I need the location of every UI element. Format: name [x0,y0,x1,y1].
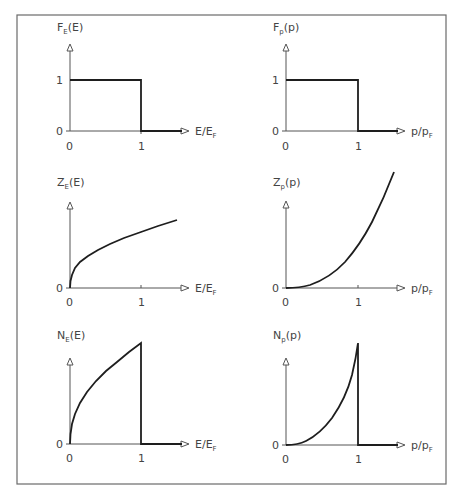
y-tick-label: 0 [56,125,63,138]
y-axis-arrow-icon [67,358,73,365]
curve [286,80,398,131]
y-axis-arrow-icon [67,44,73,51]
panel-ze: ZE(E) E/EF 0 0 1 [56,176,217,309]
curve [70,220,177,288]
y-tick-label: 1 [272,74,279,87]
curve [286,343,398,445]
x-axis-arrow-icon [397,442,405,448]
y-tick-label: 0 [272,439,279,452]
x-tick-label: 1 [138,452,145,465]
y-axis-arrow-icon [283,201,289,208]
x-axis-arrow-icon [397,285,405,291]
panel-ne: NE(E) E/EF 0 0 1 [56,329,217,465]
x-tick-label: 0 [282,453,289,466]
x-tick-label: 0 [282,296,289,309]
x-tick-label: 0 [66,296,73,309]
xlabel: p/pF [411,439,433,454]
x-axis-arrow-icon [181,128,189,134]
panel-fe: FE(E) E/EF 1 0 0 1 [56,21,217,153]
x-axis-arrow-icon [181,441,189,447]
xlabel: p/pF [411,282,433,297]
panel-fp: Fp(p) p/pF 1 0 0 1 [272,21,433,153]
x-axis-arrow-icon [397,128,405,134]
curve [70,343,182,444]
ylabel: Np(p) [273,329,301,344]
fermi-distribution-figure: FE(E) E/EF 1 0 0 1 Fp(p) p/pF 1 0 0 1 ZE… [0,0,460,496]
x-tick-label: 1 [355,140,362,153]
xlabel: p/pF [411,125,433,140]
y-tick-label: 0 [56,282,63,295]
xlabel: E/EF [195,282,217,297]
x-tick-label: 1 [138,140,145,153]
xlabel: E/EF [195,125,217,140]
x-axis-arrow-icon [181,285,189,291]
ylabel: Fp(p) [273,21,299,36]
x-tick-label: 1 [138,296,145,309]
x-tick-label: 0 [66,140,73,153]
x-tick-label: 0 [282,140,289,153]
ylabel: Zp(p) [273,176,301,191]
x-tick-label: 0 [66,452,73,465]
y-tick-label: 0 [272,282,279,295]
figure-frame [17,15,446,484]
curve [286,172,394,288]
curve [70,80,182,131]
y-tick-label: 0 [272,125,279,138]
xlabel: E/EF [195,438,217,453]
y-tick-label: 0 [56,438,63,451]
ylabel: NE(E) [57,329,85,344]
y-axis-arrow-icon [67,202,73,209]
y-axis-arrow-icon [283,44,289,51]
y-axis-arrow-icon [283,358,289,365]
ylabel: ZE(E) [57,176,85,191]
x-tick-label: 1 [355,453,362,466]
panel-np: Np(p) p/pF 0 0 1 [272,329,433,466]
x-tick-label: 1 [355,296,362,309]
panel-zp: Zp(p) p/pF 0 0 1 [272,172,433,309]
y-tick-label: 1 [56,74,63,87]
ylabel: FE(E) [57,21,83,36]
